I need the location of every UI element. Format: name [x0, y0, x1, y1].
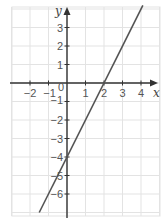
data-series — [39, 5, 143, 212]
y-axis-arrow-icon — [64, 7, 71, 15]
series-line — [39, 5, 143, 212]
x-tick-label: 3 — [119, 87, 125, 99]
x-tick-label: 0 — [58, 81, 64, 93]
y-tick-label: 3 — [57, 22, 63, 34]
y-tick-labels: 321−1−2−3−4−5−6 — [50, 22, 63, 201]
x-tick-label: 4 — [138, 87, 144, 99]
axes — [10, 7, 158, 218]
x-tick-label: −2 — [24, 87, 37, 99]
y-tick-label: 1 — [57, 59, 63, 71]
y-tick-label: −3 — [50, 133, 63, 145]
x-axis-label: x — [153, 86, 160, 100]
y-tick-label: −6 — [50, 188, 63, 200]
y-tick-label: −1 — [50, 94, 63, 106]
grid-lines — [12, 7, 161, 216]
x-tick-label: 1 — [82, 87, 88, 99]
y-axis-label: y — [54, 4, 62, 18]
y-tick-label: 2 — [57, 40, 63, 52]
y-tick-label: −4 — [50, 151, 63, 163]
line-chart: −2−101234 321−1−2−3−4−5−6 x y — [0, 0, 165, 220]
y-tick-label: −5 — [50, 170, 63, 182]
y-tick-label: −2 — [50, 114, 63, 126]
